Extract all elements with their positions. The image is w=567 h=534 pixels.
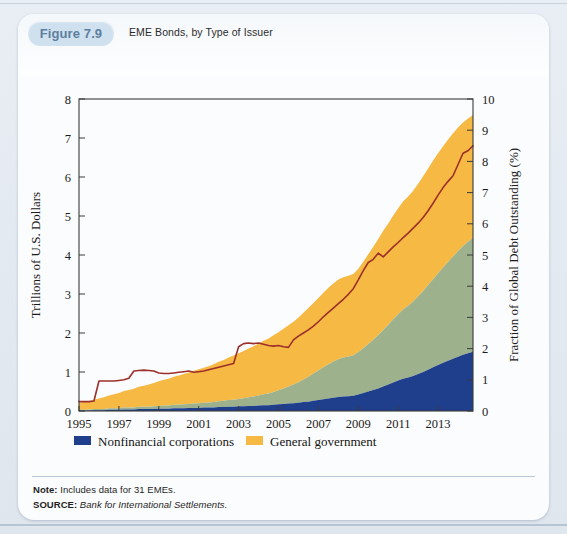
svg-text:6: 6 bbox=[65, 171, 71, 185]
legend-item: Nonfinancial corporations bbox=[74, 434, 234, 449]
chart-container: 0123456780123456789101995199719992001200… bbox=[18, 54, 549, 454]
svg-text:1995: 1995 bbox=[67, 417, 92, 431]
svg-text:Nonfinancial corporations: Nonfinancial corporations bbox=[98, 434, 234, 449]
svg-text:Fraction of Global Debt Outsta: Fraction of Global Debt Outstanding (rig… bbox=[270, 452, 498, 454]
figure-card: Figure 7.9 EME Bonds, by Type of Issuer … bbox=[18, 14, 549, 520]
figure-page: Figure 7.9 EME Bonds, by Type of Issuer … bbox=[0, 0, 567, 534]
svg-text:10: 10 bbox=[482, 93, 495, 107]
footnote-source-text: Bank for International Settlements. bbox=[77, 499, 227, 510]
svg-text:Trillions of U.S. Dollars: Trillions of U.S. Dollars bbox=[28, 192, 43, 318]
svg-text:2009: 2009 bbox=[346, 417, 371, 431]
svg-text:3: 3 bbox=[65, 288, 71, 302]
svg-text:3: 3 bbox=[482, 311, 488, 325]
svg-text:2011: 2011 bbox=[386, 417, 411, 431]
svg-text:4: 4 bbox=[482, 280, 489, 294]
footnote-source: SOURCE: Bank for International Settlemen… bbox=[33, 499, 227, 510]
page-top-rule bbox=[0, 3, 567, 4]
svg-text:2: 2 bbox=[482, 342, 488, 356]
plot-areas bbox=[79, 115, 473, 411]
figure-number-label: Figure 7.9 bbox=[28, 21, 114, 46]
figure-number-badge: Figure 7.9 bbox=[28, 21, 114, 46]
svg-text:2003: 2003 bbox=[226, 417, 251, 431]
svg-text:4: 4 bbox=[65, 249, 72, 263]
svg-text:5: 5 bbox=[482, 249, 488, 263]
footnote-note-text: Includes data for 31 EMEs. bbox=[58, 484, 176, 495]
legend-item: Fraction of Global Debt Outstanding (rig… bbox=[246, 452, 498, 454]
footnote-divider bbox=[32, 476, 535, 477]
svg-text:Financial corporations: Financial corporations bbox=[98, 452, 215, 454]
svg-text:8: 8 bbox=[482, 155, 488, 169]
legend-item: General government bbox=[246, 434, 377, 449]
svg-text:1999: 1999 bbox=[146, 417, 171, 431]
svg-text:6: 6 bbox=[482, 217, 488, 231]
page-bottom-rule bbox=[0, 524, 567, 526]
footnote-note-label: Note: bbox=[33, 484, 58, 495]
legend-item: Financial corporations bbox=[74, 452, 215, 454]
chart-legend: Nonfinancial corporationsGeneral governm… bbox=[74, 434, 498, 454]
svg-text:1: 1 bbox=[482, 373, 488, 387]
svg-text:9: 9 bbox=[482, 124, 488, 138]
svg-text:2013: 2013 bbox=[426, 417, 451, 431]
svg-text:2005: 2005 bbox=[266, 417, 291, 431]
footnote-source-label: SOURCE: bbox=[33, 499, 77, 510]
figure-title: EME Bonds, by Type of Issuer bbox=[129, 26, 273, 38]
svg-text:2007: 2007 bbox=[306, 417, 331, 431]
svg-text:7: 7 bbox=[65, 132, 71, 146]
footnote-note: Note: Includes data for 31 EMEs. bbox=[33, 484, 176, 495]
svg-text:1997: 1997 bbox=[106, 417, 131, 431]
svg-text:7: 7 bbox=[482, 186, 488, 200]
svg-text:8: 8 bbox=[65, 93, 71, 107]
svg-text:0: 0 bbox=[482, 405, 488, 419]
svg-text:General government: General government bbox=[270, 434, 377, 449]
stacked-area-chart: 0123456780123456789101995199719992001200… bbox=[18, 54, 549, 454]
svg-text:2: 2 bbox=[65, 327, 71, 341]
svg-text:5: 5 bbox=[65, 210, 71, 224]
svg-text:2001: 2001 bbox=[186, 417, 211, 431]
svg-text:Fraction of Global Debt Outsta: Fraction of Global Debt Outstanding (%) bbox=[506, 148, 521, 362]
svg-text:1: 1 bbox=[65, 366, 71, 380]
